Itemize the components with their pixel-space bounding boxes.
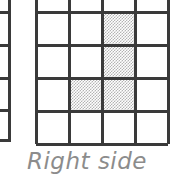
grid-cell-r5-c3 [102, 111, 135, 144]
grid-cell-r3-c1 [36, 45, 69, 78]
grid-cell-r5-c4 [135, 111, 168, 144]
fragment-horizontal-line [0, 77, 11, 80]
grid-cell-r3-c3 [102, 45, 135, 78]
fragment-horizontal-line [0, 11, 11, 14]
fragment-vertical-line [8, 0, 11, 142]
grid-vertical-line-3 [134, 0, 137, 144]
grid-cell-r2-c2 [69, 12, 102, 45]
grid-vertical-line-1 [68, 0, 71, 144]
grid-cell-r4-c4 [135, 78, 168, 111]
grid-cell-r5-c1 [36, 111, 69, 144]
grid-cell-r2-c3 [102, 12, 135, 45]
partial-grid-fragment [0, 0, 11, 142]
grid-cell-r4-c3 [102, 78, 135, 111]
grid-cell-r2-c4 [135, 12, 168, 45]
grid-cell-r4-c1 [36, 78, 69, 111]
right-side-grid [36, 0, 168, 144]
grid-cell-r2-c1 [36, 12, 69, 45]
grid-cell-r3-c4 [135, 45, 168, 78]
fragment-horizontal-line [0, 109, 11, 112]
fragment-horizontal-line [0, 44, 11, 47]
grid-cell-r4-c2 [69, 78, 102, 111]
grid-cell-r3-c2 [69, 45, 102, 78]
grid-vertical-line-0 [35, 0, 38, 144]
grid-vertical-line-2 [101, 0, 104, 144]
grid-cell-r5-c2 [69, 111, 102, 144]
fragment-horizontal-line [0, 139, 11, 142]
figure-canvas: Right side [0, 0, 174, 190]
grid-vertical-line-4 [167, 0, 170, 144]
figure-caption: Right side [0, 146, 174, 176]
